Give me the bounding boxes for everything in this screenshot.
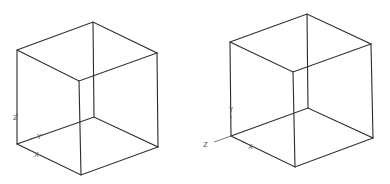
right-cube-edge (230, 42, 231, 136)
z-axis-line (214, 136, 231, 142)
axis-label-x: X (248, 143, 253, 151)
axis-label-y: Y (36, 133, 42, 141)
left-cube-edge (157, 53, 158, 147)
axis-label-x: X (34, 151, 39, 159)
left-cube-edge (93, 22, 94, 117)
right-cube-edge (293, 72, 295, 167)
right-cube-edge (307, 14, 308, 108)
left-cube-edge (79, 81, 81, 175)
right-cube: Z Y X (203, 14, 373, 167)
axis-label-y: Y (228, 106, 234, 114)
right-cube-edge (371, 44, 373, 138)
right-cube-top-face (230, 14, 371, 72)
left-cube: Z Y X (13, 22, 158, 175)
cubes-diagram: Z Y X Z Y X (0, 0, 390, 184)
right-axis-triad: Z Y X (203, 106, 253, 151)
left-cube-bottom-face (17, 117, 158, 175)
axis-label-z: Z (13, 114, 18, 122)
axis-label-z: Z (203, 141, 208, 149)
right-cube-bottom-face (231, 108, 373, 167)
left-cube-top-face (17, 22, 157, 81)
